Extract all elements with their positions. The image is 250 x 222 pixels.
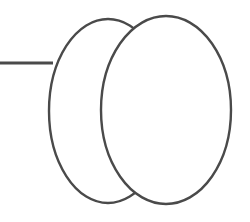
diagram-svg: [0, 0, 250, 222]
right-ellipse[interactable]: [101, 16, 231, 204]
diagram-canvas: [0, 0, 250, 222]
